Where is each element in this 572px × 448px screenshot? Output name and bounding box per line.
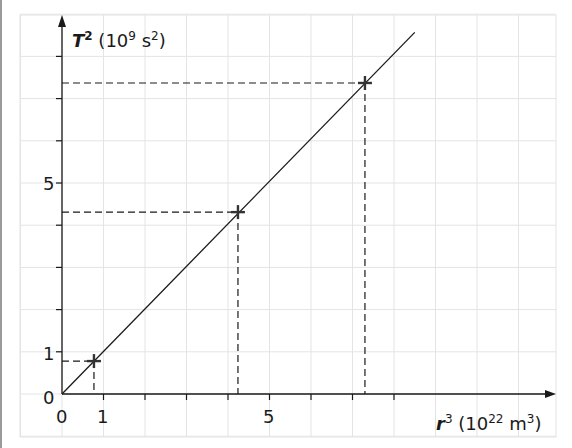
y-tick-label-0: 0: [43, 387, 54, 408]
axes: [58, 15, 556, 398]
grid-frame: [20, 15, 556, 437]
y-axis-label: T2 (109 s2): [72, 29, 166, 51]
x-axis-arrow-icon: [545, 390, 556, 398]
grid: [20, 14, 556, 437]
x-axis-label: r3 (1022 m3): [436, 412, 541, 434]
x-tick-label-0: 0: [56, 406, 67, 427]
y-axis-arrow-icon: [58, 15, 66, 27]
chart: 0 0 1 5 1 5 T2 (109 s2) r3 (1022 m3): [0, 0, 572, 448]
y-tick-label-1: 1: [43, 343, 54, 364]
x-tick-label-1: 1: [97, 406, 108, 427]
y-tick-label-5: 5: [43, 173, 54, 194]
x-tick-label-5: 5: [263, 406, 274, 427]
